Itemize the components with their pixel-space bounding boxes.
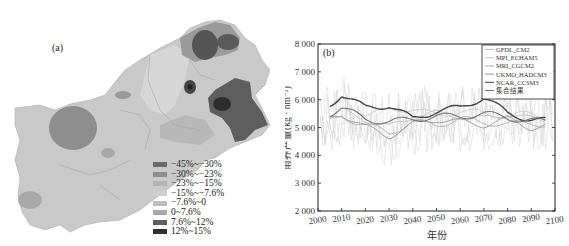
chart-legend: GFDL_CM2MPI_ECHAM5MRI_CGCM2UKMO_HADCM3NC… [482, 45, 554, 99]
legend-swatch [153, 162, 167, 167]
legend-entry-label: MRI_CGCM2 [496, 62, 534, 69]
x-tick-label: 2030 [379, 212, 399, 224]
x-axis-label: 年份 [427, 229, 447, 241]
y-tick-label: 7 000 [295, 67, 316, 77]
x-tick-label: 2070 [474, 212, 494, 224]
x-tick-label: 2050 [426, 212, 446, 224]
x-tick-label: 2060 [450, 214, 470, 226]
legend-entry-label: NCAR_CCSM3 [496, 79, 539, 86]
y-axis-label: 雨养产量(kg · hm⁻²) [285, 86, 293, 170]
y-tick-label: 5 000 [295, 123, 316, 133]
legend-entry-label: UKMO_HADCM3 [496, 71, 547, 78]
y-tick-label: 2 000 [295, 206, 316, 216]
x-tick-label: 2080 [498, 214, 518, 226]
chart-panel: 2 0003 0004 0005 0006 0007 0008 00020002… [285, 0, 569, 246]
legend-entry-label: 集合结果 [496, 86, 524, 95]
x-tick-label: 2090 [521, 212, 541, 224]
y-tick-label: 4 000 [295, 150, 316, 160]
x-tick-label: 2040 [403, 214, 423, 226]
legend-swatch [153, 191, 167, 196]
region-map [0, 0, 285, 246]
legend-swatch [153, 172, 167, 177]
legend-label: 12%~15% [171, 227, 211, 237]
x-tick-label: 2010 [332, 212, 352, 224]
legend-item: 12%~15% [153, 227, 224, 237]
map-panel-label: (a) [52, 42, 63, 53]
chart-panel-label: (b) [323, 47, 335, 59]
legend-entry-label: GFDL_CM2 [496, 46, 530, 53]
x-tick-label: 2020 [355, 214, 375, 226]
legend-entry-label: MPI_ECHAM5 [496, 54, 538, 61]
x-tick-label: 2000 [308, 214, 328, 226]
map-panel: (a) −45%~−30% −30%~−23% −23%~−15% −15%~−… [0, 0, 285, 246]
y-tick-label: 3 000 [295, 178, 316, 188]
x-tick-label: 2100 [545, 214, 565, 226]
legend-swatch [153, 201, 167, 206]
legend-swatch [153, 181, 167, 186]
y-tick-label: 6 000 [295, 95, 316, 105]
legend-swatch [153, 210, 167, 215]
yield-line-chart: 2 0003 0004 0005 0006 0007 0008 00020002… [285, 0, 569, 246]
legend-swatch [153, 220, 167, 225]
y-tick-label: 8 000 [295, 39, 316, 49]
legend-swatch [153, 229, 167, 234]
map-legend: −45%~−30% −30%~−23% −23%~−15% −15%~−7.6%… [153, 160, 224, 237]
